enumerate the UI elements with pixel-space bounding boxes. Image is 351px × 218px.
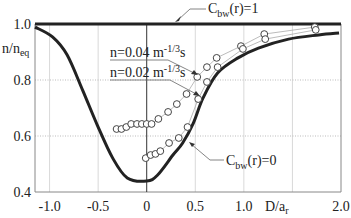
annotation-cbw1-main: C — [208, 1, 217, 16]
series-3-point — [239, 46, 246, 53]
x-tick-label: -1.0 — [38, 199, 60, 214]
series-2-point — [173, 101, 180, 108]
series-3-point — [312, 26, 319, 33]
series-3-point — [262, 36, 269, 43]
y-axis-label-sub: eq — [20, 47, 29, 58]
annotation-n002-main: n=0.02 m — [110, 65, 164, 80]
annotation-cbw1: Cbw(r)=1 — [208, 1, 258, 19]
y-tick-label: 0.8 — [14, 73, 32, 88]
annotation-n002-sup: -1/3 — [164, 63, 180, 74]
annotation-cbw1-arrow — [175, 16, 181, 22]
series-3-point — [184, 124, 191, 131]
series-3-point — [166, 140, 173, 147]
series-2-point — [165, 109, 172, 116]
annotation-n004-rest: s — [180, 45, 185, 60]
annotation-cbw1-leader — [178, 9, 206, 20]
series-2-point — [155, 116, 162, 123]
series-2-point — [213, 54, 220, 61]
y-tick-label: 0.6 — [14, 129, 32, 144]
series-layer — [35, 24, 341, 182]
annotation-cbw1-sub: bw — [217, 8, 230, 19]
series-3-point — [175, 135, 182, 142]
annotation-cbw1-rest: (r)=1 — [230, 1, 259, 17]
annotations: Cbw(r)=1n=0.04 m-1/3sn=0.02 m-1/3sCbw(r)… — [110, 1, 276, 171]
annotation-cbw0: Cbw(r)=0 — [226, 153, 276, 171]
annotation-n004: n=0.04 m-1/3s — [110, 43, 185, 60]
y-axis-label: n/neq — [2, 41, 29, 58]
x-axis-label-main: D/a — [265, 199, 286, 214]
annotation-cbw0-sub: bw — [235, 160, 248, 171]
series-2-point — [183, 91, 190, 98]
axes — [35, 24, 341, 192]
series-3-point — [214, 64, 221, 71]
grid — [35, 24, 341, 192]
annotation-n002: n=0.02 m-1/3s — [110, 63, 185, 80]
annotation-n002-arrow — [193, 91, 200, 96]
series-1-line — [35, 27, 339, 181]
x-tick-label: 0 — [143, 199, 150, 214]
x-tick-label: 0.5 — [187, 199, 205, 214]
x-tick-label: 1.0 — [235, 199, 253, 214]
chart: -1.0-0.500.51.02.00.40.60.81.0 n/neq D/a… — [0, 0, 351, 218]
y-tick-label: 0.4 — [14, 185, 32, 200]
series-3-point — [195, 96, 202, 103]
series-3-point — [204, 79, 211, 86]
y-axis-label-main: n/n — [2, 41, 20, 56]
x-axis-label: D/ar — [265, 199, 289, 216]
series-2-point — [204, 64, 211, 71]
annotation-n004-sup: -1/3 — [164, 43, 180, 54]
annotation-cbw0-leader — [191, 144, 224, 160]
annotation-cbw0-main: C — [226, 153, 235, 168]
series-2-point — [148, 121, 155, 128]
annotation-n002-rest: s — [180, 65, 185, 80]
x-tick-label: 2.0 — [332, 199, 350, 214]
y-tick-label: 1.0 — [14, 17, 32, 32]
series-3-point — [157, 148, 164, 155]
annotation-n004-main: n=0.04 m — [110, 45, 164, 60]
annotation-cbw0-rest: (r)=0 — [248, 153, 277, 169]
annotation-n004-arrow — [191, 70, 198, 75]
x-axis-label-sub: r — [285, 205, 289, 216]
x-tick-label: -0.5 — [87, 199, 109, 214]
